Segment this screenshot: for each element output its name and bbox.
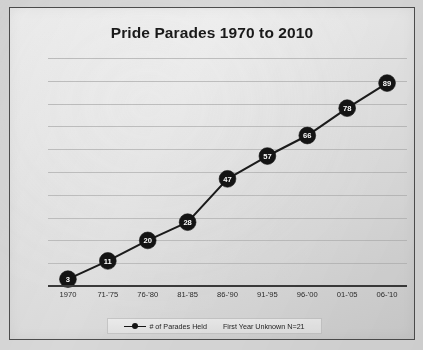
x-axis-tick-label: 06-'10: [377, 290, 398, 299]
x-axis-tick-label: 86-'90: [217, 290, 238, 299]
x-axis-tick-label: 01-'05: [337, 290, 358, 299]
x-axis-tick-label: 91-'95: [257, 290, 278, 299]
x-axis-tick-label: 71-'75: [97, 290, 118, 299]
x-axis-line: [48, 285, 407, 287]
legend-entry-note: First Year Unknown N=21: [223, 322, 305, 331]
data-point-label: 20: [143, 236, 151, 245]
line-marker-icon: [124, 322, 146, 331]
x-axis-tick-labels: 197071-'7576-'8081-'8586-'9091-'9596-'00…: [48, 290, 407, 306]
data-point-markers: 31120284757667889: [60, 75, 396, 288]
plot-area: 31120284757667889: [48, 58, 407, 286]
chart-legend: # of Parades Held First Year Unknown N=2…: [107, 318, 322, 334]
legend-note-label: First Year Unknown N=21: [223, 322, 305, 331]
data-point-label: 3: [66, 275, 70, 284]
line-series: 31120284757667889: [48, 58, 407, 286]
x-axis-tick-label: 81-'85: [177, 290, 198, 299]
data-point-label: 11: [104, 257, 113, 266]
data-point-label: 57: [263, 152, 271, 161]
x-axis-tick-label: 76-'80: [137, 290, 158, 299]
data-point-label: 78: [343, 104, 351, 113]
chart-title: Pride Parades 1970 to 2010: [10, 24, 414, 42]
legend-series-label: # of Parades Held: [149, 322, 207, 331]
data-point-label: 28: [183, 218, 191, 227]
scanned-page: Pride Parades 1970 to 2010 3112028475766…: [0, 0, 423, 350]
data-point-label: 47: [223, 175, 231, 184]
chart-frame: Pride Parades 1970 to 2010 3112028475766…: [9, 7, 415, 340]
legend-entry-series: # of Parades Held: [124, 322, 207, 331]
data-point-label: 66: [303, 131, 311, 140]
data-point-label: 89: [383, 79, 391, 88]
x-axis-tick-label: 1970: [59, 290, 76, 299]
x-axis-tick-label: 96-'00: [297, 290, 318, 299]
